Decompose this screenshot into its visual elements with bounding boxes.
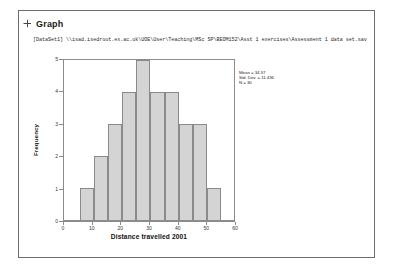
x-tick-label: 50	[204, 226, 210, 231]
histogram-bar	[94, 156, 108, 220]
histogram-bar	[108, 124, 122, 220]
x-axis-title: Distance travelled 2001	[63, 233, 235, 240]
x-tick-label: 10	[89, 226, 95, 231]
x-tick-label: 30	[146, 226, 152, 231]
histogram-bar	[193, 124, 207, 220]
y-tick-label: 1	[55, 186, 58, 191]
y-tick-label: 3	[55, 121, 58, 126]
y-tick-label: 4	[55, 89, 58, 94]
plot-inner	[64, 60, 234, 220]
histogram-bar	[136, 60, 150, 220]
histogram-chart: Frequency 012345 0102030405060 Distance …	[33, 51, 259, 248]
histogram-bar	[165, 92, 179, 220]
graph-header[interactable]: Graph	[23, 17, 64, 30]
histogram-bar	[207, 188, 221, 220]
x-tick-label: 60	[232, 226, 238, 231]
graph-title: Graph	[36, 19, 64, 29]
histogram-bars	[80, 60, 221, 220]
histogram-bar	[122, 92, 136, 220]
y-tick-label: 2	[55, 154, 58, 159]
x-tick-label: 40	[175, 226, 181, 231]
output-panel: Graph [DataSet1] \\isad.isedroot.ex.ac.u…	[18, 10, 375, 258]
y-tick-label: 0	[55, 219, 58, 224]
histogram-bar	[179, 124, 193, 220]
stats-annotation: Mean = 34.37Std. Dev. = 11.436N = 30	[239, 70, 285, 86]
stats-line: N = 30	[239, 80, 285, 85]
y-axis-ticks: 012345	[55, 59, 63, 221]
x-tick-label: 0	[62, 226, 65, 231]
spss-output-viewer: Graph [DataSet1] \\isad.isedroot.ex.ac.u…	[0, 0, 393, 276]
dataset-path: [DataSet1] \\isad.isedroot.ex.ac.uk\UOE\…	[33, 37, 367, 44]
plot-frame	[63, 59, 235, 221]
y-tick-label: 5	[55, 57, 58, 62]
y-axis-title: Frequency	[32, 124, 39, 156]
histogram-bar	[150, 92, 164, 220]
histogram-bar	[80, 188, 94, 220]
x-tick-label: 20	[118, 226, 124, 231]
expand-plus-icon[interactable]	[23, 19, 32, 28]
